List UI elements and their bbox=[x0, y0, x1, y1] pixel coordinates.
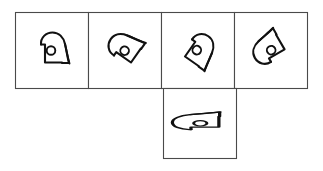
panel-grid bbox=[0, 0, 323, 171]
panel-5-border bbox=[164, 89, 237, 159]
panel-1-border bbox=[16, 13, 89, 89]
figure-root: Five bordered panels each containing a h… bbox=[0, 0, 323, 171]
panel-2[interactable] bbox=[89, 13, 162, 89]
panel-1[interactable] bbox=[16, 13, 89, 89]
panel-4-border bbox=[235, 13, 308, 89]
panel-4[interactable] bbox=[235, 13, 308, 89]
panel-5[interactable] bbox=[164, 89, 237, 159]
panel-3[interactable] bbox=[162, 13, 235, 89]
panel-2-border bbox=[89, 13, 162, 89]
panel-3-border bbox=[162, 13, 235, 89]
